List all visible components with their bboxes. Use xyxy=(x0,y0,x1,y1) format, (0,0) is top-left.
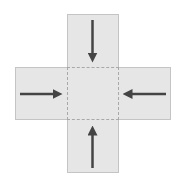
arrows-layer xyxy=(0,0,184,183)
cross-diagram xyxy=(0,0,184,183)
